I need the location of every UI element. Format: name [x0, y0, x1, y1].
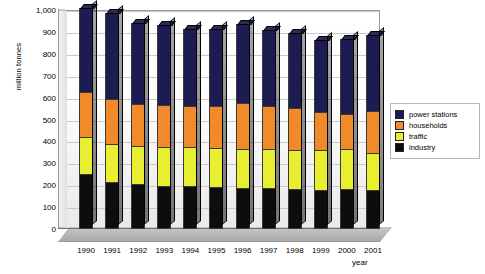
bar-side-face — [327, 32, 332, 225]
bar-segment-traffic[interactable] — [288, 151, 302, 190]
bar-side-face — [379, 27, 384, 225]
bar-segment-power-stations[interactable] — [366, 35, 380, 112]
bar-side-face — [301, 25, 306, 225]
chart-container: million tonnes 0100200300400500600700800… — [0, 0, 485, 274]
bar-2000[interactable] — [340, 39, 354, 229]
bar-side-face — [275, 22, 280, 225]
bar-segment-traffic[interactable] — [340, 150, 354, 190]
legend-label: households — [409, 121, 447, 130]
legend-item[interactable]: traffic — [395, 132, 475, 141]
legend: power stationshouseholdstrafficindustry — [390, 103, 480, 159]
bar-segment-traffic[interactable] — [366, 154, 380, 191]
plot-area — [58, 10, 380, 242]
bar-1996[interactable] — [236, 24, 250, 229]
bar-1993[interactable] — [157, 25, 171, 229]
y-axis-tick-label: 100 — [18, 203, 56, 212]
bar-segment-industry[interactable] — [314, 191, 328, 229]
y-axis-tick-label: 1,000 — [18, 6, 56, 15]
legend-label: power stations — [409, 110, 457, 119]
legend-swatch-icon — [395, 110, 404, 119]
bar-segment-industry[interactable] — [262, 189, 276, 229]
x-axis-title: year — [352, 258, 368, 267]
bar-side-face — [196, 21, 201, 225]
bar-1992[interactable] — [131, 23, 145, 229]
bar-segment-households[interactable] — [366, 112, 380, 154]
bar-segment-traffic[interactable] — [79, 138, 93, 175]
legend-swatch-icon — [395, 132, 404, 141]
legend-label: traffic — [409, 132, 427, 141]
bar-segment-traffic[interactable] — [314, 151, 328, 191]
legend-swatch-icon — [395, 121, 404, 130]
bar-1999[interactable] — [314, 40, 328, 229]
legend-item[interactable]: households — [395, 121, 475, 130]
bar-segment-power-stations[interactable] — [340, 39, 354, 115]
y-axis-tick-labels: 01002003004005006007008009001,000 — [18, 0, 56, 274]
bar-segment-power-stations[interactable] — [288, 33, 302, 109]
y-axis-tick-label: 900 — [18, 27, 56, 36]
legend-item[interactable]: industry — [395, 143, 475, 152]
bar-side-face — [353, 31, 358, 225]
bar-segment-traffic[interactable] — [262, 150, 276, 189]
y-axis-tick-label: 700 — [18, 71, 56, 80]
y-axis-tick-label: 200 — [18, 181, 56, 190]
x-axis-tick-label: 2001 — [356, 246, 390, 255]
bar-segment-power-stations[interactable] — [236, 24, 250, 104]
bar-segment-power-stations[interactable] — [262, 30, 276, 106]
bar-group — [67, 10, 380, 229]
bar-segment-power-stations[interactable] — [79, 8, 93, 93]
bar-segment-industry[interactable] — [236, 189, 250, 229]
y-axis-tick-label: 500 — [18, 115, 56, 124]
y-axis-tick-label: 300 — [18, 159, 56, 168]
bar-segment-power-stations[interactable] — [314, 40, 328, 113]
bar-segment-households[interactable] — [236, 104, 250, 150]
bar-side-face — [222, 21, 227, 225]
bar-segment-households[interactable] — [79, 93, 93, 138]
bar-segment-industry[interactable] — [79, 175, 93, 229]
bar-segment-traffic[interactable] — [236, 150, 250, 189]
bar-1991[interactable] — [105, 13, 119, 229]
bar-segment-households[interactable] — [314, 113, 328, 151]
bar-segment-households[interactable] — [288, 109, 302, 151]
bar-side-face — [118, 5, 123, 225]
bar-segment-industry[interactable] — [288, 190, 302, 229]
bar-1994[interactable] — [183, 29, 197, 229]
bar-1990[interactable] — [79, 8, 93, 229]
bar-side-face — [249, 16, 254, 225]
bar-2001[interactable] — [366, 35, 380, 229]
legend-label: industry — [409, 143, 435, 152]
y-axis-tick-label: 400 — [18, 137, 56, 146]
legend-item[interactable]: power stations — [395, 110, 475, 119]
bar-1997[interactable] — [262, 30, 276, 229]
bar-segment-households[interactable] — [262, 107, 276, 151]
bar-side-face — [92, 0, 97, 225]
plot-floor — [58, 227, 392, 242]
bar-segment-households[interactable] — [340, 115, 354, 151]
bar-1998[interactable] — [288, 33, 302, 229]
y-axis-tick-label: 0 — [18, 225, 56, 234]
legend-swatch-icon — [395, 143, 404, 152]
y-axis-tick-label: 600 — [18, 93, 56, 102]
y-axis-tick-label: 800 — [18, 49, 56, 58]
bar-segment-industry[interactable] — [340, 190, 354, 229]
bar-side-face — [144, 15, 149, 225]
x-axis-tick-labels: 1990199119921993199419951996199719981999… — [58, 246, 380, 260]
bar-segment-industry[interactable] — [366, 191, 380, 229]
bar-side-face — [170, 17, 175, 225]
bar-1995[interactable] — [209, 29, 223, 229]
